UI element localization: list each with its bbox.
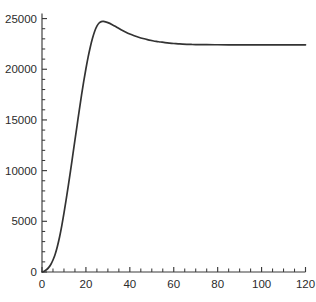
data-series-curve [42, 21, 306, 272]
x-tick-label: 40 [123, 278, 136, 290]
x-axis-ticks [42, 267, 306, 272]
line-chart: 0500010000150002000025000 02040608010012… [0, 0, 316, 302]
y-tick-label: 20000 [5, 63, 37, 75]
chart-container: 0500010000150002000025000 02040608010012… [0, 0, 316, 302]
y-tick-label: 15000 [5, 114, 37, 126]
x-tick-label: 120 [296, 278, 315, 290]
y-axis-ticks [42, 19, 47, 272]
x-tick-label: 80 [211, 278, 224, 290]
x-tick-label: 20 [80, 278, 93, 290]
y-tick-label: 0 [31, 266, 37, 278]
x-tick-label: 60 [167, 278, 180, 290]
x-axis-tick-labels: 020406080100120 [39, 278, 315, 290]
y-tick-label: 10000 [5, 165, 37, 177]
x-tick-label: 0 [39, 278, 45, 290]
y-tick-label: 25000 [5, 13, 37, 25]
y-axis-tick-labels: 0500010000150002000025000 [5, 13, 37, 278]
y-tick-label: 5000 [11, 215, 37, 227]
x-tick-label: 100 [252, 278, 271, 290]
